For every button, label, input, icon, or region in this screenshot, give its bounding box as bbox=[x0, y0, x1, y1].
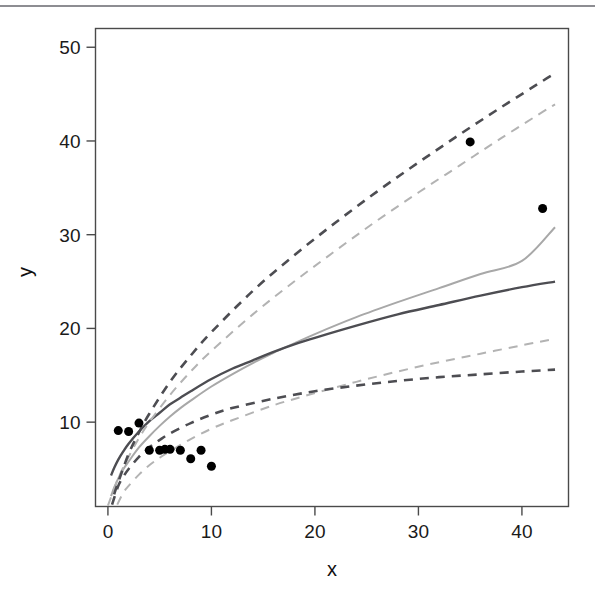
y-tick-label: 10 bbox=[59, 412, 80, 433]
y-tick-label: 50 bbox=[59, 37, 80, 58]
data-point bbox=[466, 137, 475, 146]
x-tick-label: 10 bbox=[201, 521, 222, 542]
data-point bbox=[134, 419, 143, 428]
y-tick-label: 30 bbox=[59, 225, 80, 246]
data-point bbox=[176, 446, 185, 455]
data-point bbox=[197, 446, 206, 455]
data-point bbox=[145, 446, 154, 455]
x-tick-label: 0 bbox=[103, 521, 114, 542]
y-tick-label: 40 bbox=[59, 131, 80, 152]
y-axis-title: y bbox=[14, 267, 36, 277]
y-axis-ticks bbox=[87, 47, 96, 422]
data-point bbox=[124, 427, 133, 436]
y-tick-label: 20 bbox=[59, 318, 80, 339]
figure-root: 1020304050 010203040 x y bbox=[0, 0, 595, 604]
x-tick-label: 20 bbox=[304, 521, 325, 542]
x-axis-title: x bbox=[327, 558, 337, 580]
x-axis-tick-labels: 010203040 bbox=[103, 521, 533, 542]
x-axis-ticks bbox=[108, 507, 522, 516]
plot-background bbox=[96, 29, 569, 507]
data-point bbox=[207, 462, 216, 471]
data-point bbox=[166, 445, 175, 454]
x-tick-label: 40 bbox=[511, 521, 532, 542]
data-point bbox=[114, 426, 123, 435]
x-tick-label: 30 bbox=[408, 521, 429, 542]
y-axis-tick-labels: 1020304050 bbox=[59, 37, 80, 433]
data-point bbox=[186, 454, 195, 463]
data-point bbox=[538, 204, 547, 213]
scatter-chart: 1020304050 010203040 x y bbox=[0, 0, 595, 604]
